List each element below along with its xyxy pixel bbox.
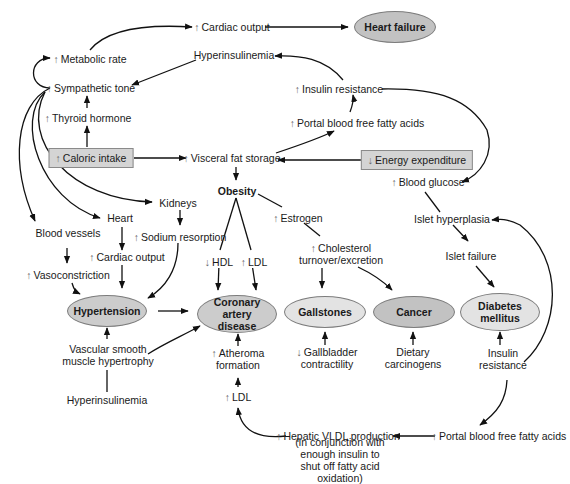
cancer-ellipse: Cancer	[373, 296, 455, 328]
up-arrow-icon: ↑	[391, 176, 396, 188]
down-arrow-icon: ↓	[297, 346, 302, 358]
gallstones-ellipse: Gallstones	[284, 296, 366, 328]
up-arrow-icon: ↑	[45, 112, 50, 124]
vascular-smooth-muscle-node: Vascular smooth muscle hypertrophy	[58, 343, 158, 367]
up-arrow-icon: ↑	[225, 391, 230, 403]
up-arrow-icon: ↑	[134, 231, 139, 243]
connector-arrows	[0, 0, 570, 484]
cardiac-output-top-node: ↑Cardiac output	[194, 21, 270, 33]
up-arrow-icon: ↑	[241, 256, 246, 268]
insulin-resistance-top-node: ↑Insulin resistance	[295, 83, 383, 95]
blood-glucose-node: ↑Blood glucose	[391, 176, 464, 188]
metabolic-rate-node: ↑Metabolic rate	[53, 53, 126, 65]
visceral-fat-node: ↑Visceral fat storage	[184, 152, 281, 164]
blood-vessels-node: Blood vessels	[36, 227, 101, 239]
hyperinsulinemia-top-node: Hyperinsulinemia	[194, 49, 275, 61]
up-arrow-icon: ↑	[89, 251, 94, 263]
up-arrow-icon: ↑	[47, 82, 52, 94]
up-arrow-icon: ↑	[432, 430, 437, 442]
up-arrow-icon: ↑	[311, 242, 316, 254]
insulin-resistance-bottom-node: Insulin resistance	[473, 347, 533, 371]
up-arrow-icon: ↑	[290, 117, 295, 129]
estrogen-node: ↑Estrogen	[273, 212, 322, 224]
dietary-carcinogens-node: Dietary carcinogens	[378, 346, 448, 370]
up-arrow-icon: ↑	[295, 83, 300, 95]
caloric-intake-box: ↑Caloric intake	[49, 148, 134, 168]
down-arrow-icon: ↓	[368, 154, 373, 166]
up-arrow-icon: ↑	[194, 21, 199, 33]
up-arrow-icon: ↑	[184, 152, 189, 164]
ldl-bottom-node: ↑LDL	[225, 391, 252, 403]
cholesterol-turnover-node: ↑Cholesterol turnover/excretion	[286, 242, 396, 266]
portal-ffa-top-node: ↑Portal blood free fatty acids	[290, 117, 425, 129]
up-arrow-icon: ↑	[56, 152, 61, 164]
thyroid-hormone-node: ↑Thyroid hormone	[45, 112, 132, 124]
ldl-top-node: ↑LDL	[241, 256, 268, 268]
up-arrow-icon: ↑	[53, 53, 58, 65]
islet-failure-node: Islet failure	[446, 250, 497, 262]
atheroma-formation-node: ↑Atheroma formation	[203, 347, 273, 371]
hypertension-ellipse: Hypertension	[67, 295, 147, 327]
heart-node: Heart	[107, 212, 133, 224]
gallbladder-contractility-node: ↓Gallbladder contractility	[287, 346, 367, 370]
up-arrow-icon: ↑	[212, 347, 217, 359]
hdl-node: ↓HDL	[205, 256, 233, 268]
up-arrow-icon: ↑	[26, 269, 31, 281]
coronary-artery-disease-ellipse: Coronary artery disease	[197, 295, 277, 333]
diabetes-mellitus-ellipse: Diabetes mellitus	[460, 293, 540, 331]
down-arrow-icon: ↓	[205, 256, 210, 268]
up-arrow-icon: ↑	[276, 430, 281, 442]
hyperinsulinemia-bottom-node: Hyperinsulinemia	[67, 394, 148, 406]
islet-hyperplasia-node: Islet hyperplasia	[414, 213, 490, 225]
up-arrow-icon: ↑	[273, 212, 278, 224]
energy-expenditure-box: ↓Energy expenditure	[361, 150, 473, 170]
sympathetic-tone-node: ↑Sympathetic tone	[47, 82, 135, 94]
obesity-pathway-diagram: ↑Cardiac output Heart failure ↑Metabolic…	[0, 0, 570, 484]
portal-ffa-bottom-node: ↑Portal blood free fatty acids	[432, 430, 567, 442]
kidneys-node: Kidneys	[159, 197, 196, 209]
cardiac-output-mid-node: ↑Cardiac output	[89, 251, 165, 263]
sodium-resorption-node: ↑Sodium resorption	[134, 231, 226, 243]
obesity-node: Obesity	[218, 185, 257, 197]
vasoconstriction-node: ↑Vasoconstriction	[26, 269, 110, 281]
hepatic-vldl-note: (in conjunction with enough insulin to s…	[290, 436, 390, 484]
heart-failure-ellipse: Heart failure	[354, 11, 436, 43]
